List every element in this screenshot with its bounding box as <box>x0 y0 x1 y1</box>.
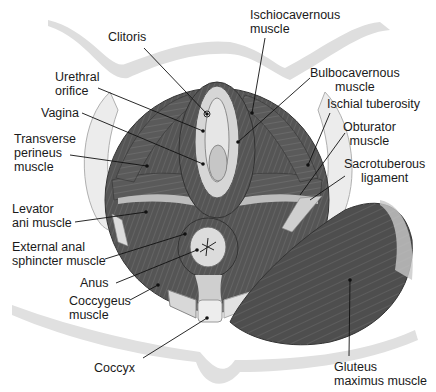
label-coccygeus: Coccygeus muscle <box>69 294 131 322</box>
label-urethral-orifice: Urethral orifice <box>55 70 99 98</box>
label-sacrotuberous: Sacrotuberous ligament <box>344 157 425 185</box>
label-obturator: Obturator muscle <box>343 120 396 148</box>
label-ischiocavernous: Ischiocavernous muscle <box>250 8 340 36</box>
coccyx-bone <box>198 300 222 322</box>
perineum-diagram <box>0 0 436 392</box>
label-clitoris: Clitoris <box>108 30 146 44</box>
label-levator-ani: Levator ani muscle <box>12 202 72 230</box>
vaginal-opening <box>209 145 227 181</box>
label-vagina: Vagina <box>41 106 79 120</box>
label-anus: Anus <box>80 276 109 290</box>
label-transverse-perineus: Transverse perineus muscle <box>14 132 76 174</box>
label-bulbocavernous: Bulbocavernous muscle <box>310 66 400 94</box>
label-coccyx: Coccyx <box>94 361 135 375</box>
label-external-anal-sphincter: External anal sphincter muscle <box>12 240 106 268</box>
label-ischial-tuberosity: Ischial tuberosity <box>327 97 420 111</box>
label-gluteus-maximus: Gluteus maximus muscle <box>334 360 427 388</box>
